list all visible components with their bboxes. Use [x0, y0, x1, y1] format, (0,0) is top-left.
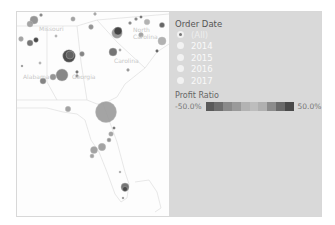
city-bubble[interactable] — [129, 22, 132, 25]
legend-min-label: -50.0% — [175, 102, 202, 111]
radio-icon[interactable] — [177, 77, 184, 84]
city-bubble[interactable] — [94, 13, 97, 16]
radio-option-all[interactable]: (All) — [177, 29, 208, 40]
city-bubble[interactable] — [80, 52, 85, 57]
radio-label: 2017 — [191, 76, 213, 86]
radio-option-2016[interactable]: 2016 — [177, 63, 213, 74]
map-canvas[interactable] — [17, 12, 169, 216]
city-bubble[interactable] — [55, 35, 57, 37]
city-bubble[interactable] — [27, 21, 33, 27]
city-bubble[interactable] — [135, 18, 138, 21]
city-bubble[interactable] — [96, 102, 117, 123]
color-legend: -50.0% 50.0% — [175, 102, 321, 111]
city-bubble[interactable] — [65, 106, 70, 111]
city-bubble[interactable] — [140, 16, 143, 19]
radio-label: 2016 — [191, 64, 213, 74]
ramp-swatch — [241, 102, 250, 111]
map-state-label: Alabama — [23, 73, 49, 80]
city-bubble[interactable] — [119, 49, 121, 51]
radio-option-2017[interactable]: 2017 — [177, 75, 213, 86]
ramp-swatch — [285, 102, 294, 111]
legend-max-label: 50.0% — [298, 102, 322, 111]
city-bubble[interactable] — [98, 143, 105, 150]
map-view[interactable]: MissouriNorth CarolinaCarolinaAlabamaGeo… — [17, 12, 169, 216]
city-bubble[interactable] — [122, 197, 124, 199]
radio-option-2015[interactable]: 2015 — [177, 52, 213, 63]
radio-label: (All) — [191, 30, 208, 40]
city-bubble[interactable] — [19, 37, 24, 42]
ramp-swatch — [276, 102, 285, 111]
ramp-swatch — [214, 102, 223, 111]
city-bubble[interactable] — [66, 51, 74, 59]
state-borders — [17, 14, 169, 212]
legend-title: Profit Ratio — [175, 91, 219, 100]
dashboard-frame: MissouriNorth CarolinaCarolinaAlabamaGeo… — [16, 11, 322, 217]
ramp-swatch — [258, 102, 267, 111]
radio-icon[interactable] — [177, 42, 184, 49]
city-bubble[interactable] — [40, 14, 43, 17]
ramp-swatch — [267, 102, 276, 111]
side-panel: Order Date (All) 2014 2015 2016 2017 Pro… — [169, 12, 321, 216]
radio-selected-icon[interactable] — [177, 31, 184, 38]
map-state-label: Georgia — [72, 73, 96, 80]
city-bubble[interactable] — [156, 50, 159, 53]
ramp-swatch — [206, 102, 215, 111]
city-bubble[interactable] — [109, 48, 117, 56]
city-bubble[interactable] — [114, 27, 122, 35]
city-bubble[interactable] — [127, 69, 130, 72]
city-bubble[interactable] — [21, 65, 23, 67]
city-bubble[interactable] — [56, 69, 68, 81]
ramp-swatch — [232, 102, 241, 111]
city-bubble[interactable] — [123, 187, 128, 192]
radio-icon[interactable] — [177, 54, 184, 61]
radio-icon[interactable] — [177, 65, 184, 72]
radio-option-2014[interactable]: 2014 — [177, 40, 213, 51]
ramp-swatch — [223, 102, 232, 111]
map-state-label: Carolina — [114, 57, 139, 64]
color-ramp — [206, 102, 294, 111]
city-bubble[interactable] — [89, 25, 94, 30]
city-bubble[interactable] — [109, 132, 114, 137]
city-bubble[interactable] — [113, 127, 116, 130]
city-bubble[interactable] — [144, 19, 150, 25]
city-bubble[interactable] — [34, 38, 39, 43]
city-bubble[interactable] — [91, 147, 98, 154]
map-state-label: Missouri — [39, 25, 64, 32]
city-bubble[interactable] — [119, 171, 121, 173]
radio-label: 2015 — [191, 53, 213, 63]
city-bubble[interactable] — [27, 40, 33, 46]
city-bubble[interactable] — [90, 154, 94, 158]
city-bubble[interactable] — [39, 62, 41, 64]
ramp-swatch — [250, 102, 259, 111]
filter-title: Order Date — [175, 19, 222, 29]
city-bubble[interactable] — [50, 74, 56, 80]
city-bubble[interactable] — [107, 138, 111, 142]
map-state-label: North Carolina — [133, 26, 169, 40]
radio-label: 2014 — [191, 41, 213, 51]
city-bubble[interactable] — [71, 17, 75, 21]
